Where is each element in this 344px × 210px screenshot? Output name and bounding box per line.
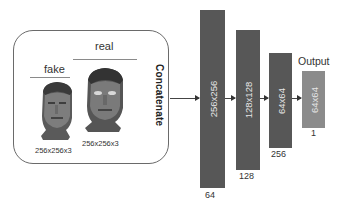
output-title: Output — [298, 55, 330, 67]
layer-2-block: 128x128 — [236, 30, 260, 170]
fake-label: fake — [44, 63, 65, 75]
layer-2-channels: 128 — [239, 171, 254, 181]
real-face-image — [84, 68, 126, 132]
real-label: real — [95, 40, 113, 52]
layer-1-spatial: 256x256 — [207, 81, 218, 117]
real-size-label: 256x256x3 — [82, 139, 119, 148]
arrow-layer3-to-output — [292, 98, 301, 99]
layer-1-channels: 64 — [205, 190, 215, 200]
layer-1-block: 256x256 — [200, 10, 225, 188]
layer-3-spatial: 64x64 — [275, 88, 286, 114]
fake-face-image — [40, 82, 74, 140]
arrow-layer1-to-layer2 — [225, 98, 235, 99]
concatenate-label: Concatenate — [154, 64, 165, 126]
arrow-layer2-to-layer3 — [260, 98, 268, 99]
output-spatial: 64x64 — [308, 87, 319, 113]
output-channels: 1 — [311, 128, 316, 138]
layer-2-spatial: 128x128 — [243, 82, 254, 118]
fake-underline — [30, 77, 70, 78]
fake-size-label: 256x256x3 — [35, 146, 72, 155]
output-layer-block: 64x64 — [302, 71, 325, 128]
arrow-input-to-layer1 — [170, 98, 199, 99]
layer-3-block: 64x64 — [269, 53, 292, 148]
layer-3-channels: 256 — [271, 149, 286, 159]
real-underline — [73, 59, 137, 60]
